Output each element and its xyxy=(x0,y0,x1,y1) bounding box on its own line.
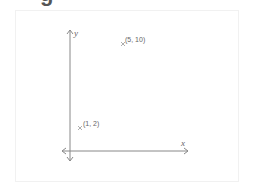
data-point-5-10: (5, 10) xyxy=(121,36,145,46)
point-label: (1, 2) xyxy=(83,120,99,128)
scatter-plot: y x (5, 10) (1, 2) xyxy=(0,0,253,189)
x-axis xyxy=(62,148,188,154)
x-marker-icon xyxy=(78,126,82,130)
point-label: (5, 10) xyxy=(125,36,145,44)
data-point-1-2: (1, 2) xyxy=(78,120,99,130)
x-axis-label: x xyxy=(180,138,185,148)
y-axis-label: y xyxy=(73,28,78,38)
y-axis xyxy=(67,30,73,161)
